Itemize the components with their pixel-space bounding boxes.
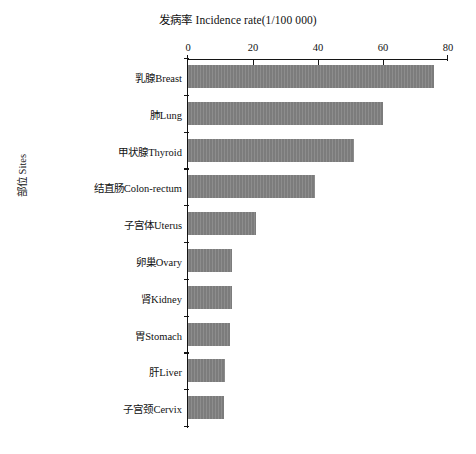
bar-3 — [188, 175, 315, 198]
bar-9 — [188, 396, 224, 419]
x-tick-label-80: 80 — [443, 42, 454, 53]
x-tick-label-40: 40 — [313, 42, 324, 53]
category-label-7: 胃Stomach — [2, 328, 182, 343]
category-label-9: 子宫颈Cervix — [2, 401, 182, 416]
y-tick-8 — [184, 352, 189, 353]
bar-8 — [188, 359, 225, 382]
bar-2 — [188, 139, 354, 162]
y-tick-3 — [184, 168, 189, 169]
bar-4 — [188, 212, 256, 235]
category-label-0: 乳腺Breast — [2, 70, 182, 85]
y-tick-1 — [184, 95, 189, 96]
bar-chart-figure: 发病率 Incidence rate(1/100 000) 部位 Sites 0… — [0, 0, 476, 454]
bar-1 — [188, 102, 383, 125]
y-tick-2 — [184, 132, 189, 133]
category-label-2: 甲状腺Thyroid — [2, 144, 182, 159]
category-label-3: 结直肠Colon-rectum — [2, 180, 182, 195]
category-label-5: 卵巢Ovary — [2, 254, 182, 269]
x-tick-label-60: 60 — [378, 42, 389, 53]
y-tick-0 — [184, 58, 189, 59]
y-tick-4 — [184, 205, 189, 206]
y-tick-5 — [184, 242, 189, 243]
bar-5 — [188, 249, 232, 272]
category-label-8: 肝Liver — [2, 364, 182, 379]
category-label-1: 肺Lung — [2, 107, 182, 122]
x-tick-label-20: 20 — [248, 42, 259, 53]
bar-6 — [188, 286, 232, 309]
x-axis-cap-80 — [447, 55, 448, 61]
bar-7 — [188, 323, 230, 346]
y-tick-7 — [184, 316, 189, 317]
category-label-4: 子宫体Uterus — [2, 217, 182, 232]
chart-title: 发病率 Incidence rate(1/100 000) — [0, 11, 476, 27]
y-tick-end — [184, 426, 189, 427]
category-label-6: 肾Kidney — [2, 291, 182, 306]
bar-0 — [188, 65, 434, 88]
y-tick-9 — [184, 389, 189, 390]
plot-area: 020406080 — [188, 60, 448, 428]
y-tick-6 — [184, 279, 189, 280]
x-tick-label-0: 0 — [185, 42, 190, 53]
